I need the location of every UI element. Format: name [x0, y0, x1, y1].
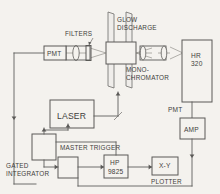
laser-beam-path [94, 92, 122, 120]
wire-hp-to-plotter [128, 165, 152, 170]
glow-discharge-label-line1: GLOW [117, 16, 138, 23]
gated-integrator-label-line1: GATED [6, 162, 29, 169]
laser-label: LASER [57, 111, 86, 121]
apparatus-schematic: PMT FILTERS GLOW DISCHARGE MONO- CHROMAT… [0, 0, 220, 194]
monochromator-label-line2: CHROMATOR [126, 74, 169, 81]
hp-9825-label-line2: 9825 [108, 168, 124, 175]
glow-discharge-label-line2: DISCHARGE [117, 24, 157, 31]
hp-9825-label-line1: HP [110, 159, 120, 166]
master-trigger-box [32, 134, 56, 160]
filters-label: FILTERS [65, 30, 92, 37]
hr320-label-line2: 320 [191, 60, 203, 67]
collection-lens-left [73, 46, 79, 61]
hr320-box [182, 40, 212, 102]
gated-integrator-label-line2: INTEGRATOR [6, 170, 49, 177]
diagram-canvas: PMT FILTERS GLOW DISCHARGE MONO- CHROMAT… [0, 0, 220, 194]
gated-integrator-box [58, 157, 78, 178]
plotter-label: PLOTTER [151, 178, 182, 185]
glow-discharge-cell [106, 42, 136, 64]
monochromator-lens-tube [140, 46, 167, 60]
xy-label: X-Y [159, 162, 171, 169]
master-trigger-label: MASTER TRIGGER [60, 144, 120, 151]
wire-integrator-to-hp [78, 165, 104, 170]
wire-amp-to-bus [190, 139, 195, 186]
pmt-left-label: PMT [47, 50, 62, 57]
hr320-label-line1: HR [191, 52, 201, 59]
pmt-right-label: PMT [168, 106, 183, 113]
monochromator-label-line1: MONO- [126, 66, 149, 73]
amp-label: AMP [184, 126, 199, 133]
wire-trigger-to-integrator [44, 160, 58, 169]
